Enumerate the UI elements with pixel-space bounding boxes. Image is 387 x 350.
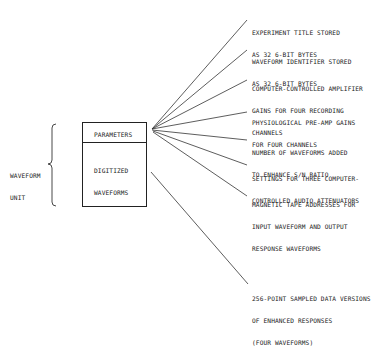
label-line: WAVEFORMS [94,189,128,196]
annotation-sampled-data: 256-POINT SAMPLED DATA VERSIONS OF ENHAN… [252,280,371,350]
annotation-line: RESPONSE WAVEFORMS [252,245,355,252]
label-line: DIGITIZED [94,167,128,174]
annotation-tape-addresses: MAGNETIC TAPE ADDRESSES FOR INPUT WAVEFO… [252,186,355,260]
annotation-line: NUMBER OF WAVEFORMS ADDED [252,149,348,156]
annotation-line: WAVEFORM IDENTIFIER STORED [252,58,351,65]
annotation-line: SETTINGS FOR THREE COMPUTER- [252,175,359,182]
unit-label-line: WAVEFORM [10,172,41,179]
annotation-line: EXPERIMENT TITLE STORED [252,29,340,36]
annotation-line: COMPUTER-CONTROLLED AMPLIFIER [252,85,363,92]
annotation-line: 256-POINT SAMPLED DATA VERSIONS [252,295,371,302]
annotation-line: INPUT WAVEFORM AND OUTPUT [252,223,355,230]
unit-label-line: UNIT [10,194,41,201]
unit-label: WAVEFORM UNIT [10,157,41,209]
parameters-label: PARAMETERS [94,131,132,138]
annotation-line: (FOUR WAVEFORMS) [252,339,371,346]
annotation-line: PHYSIOLOGICAL PRE-AMP GAINS [252,119,355,126]
annotation-line: MAGNETIC TAPE ADDRESSES FOR [252,201,355,208]
digitized-waveforms-label: DIGITIZED WAVEFORMS [94,152,128,204]
annotation-line: OF ENHANCED RESPONSES [252,317,371,324]
